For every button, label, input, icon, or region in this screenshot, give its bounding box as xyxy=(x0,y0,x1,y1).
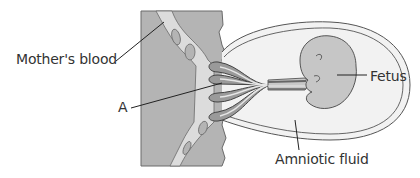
label-amniotic-fluid: Amniotic fluid xyxy=(275,151,369,167)
label-mothers-blood: Mother's blood xyxy=(16,51,117,67)
umbilical-cord xyxy=(268,78,310,90)
label-a: A xyxy=(118,99,127,115)
wall-island xyxy=(185,44,195,60)
label-fetus: Fetus xyxy=(370,68,407,84)
